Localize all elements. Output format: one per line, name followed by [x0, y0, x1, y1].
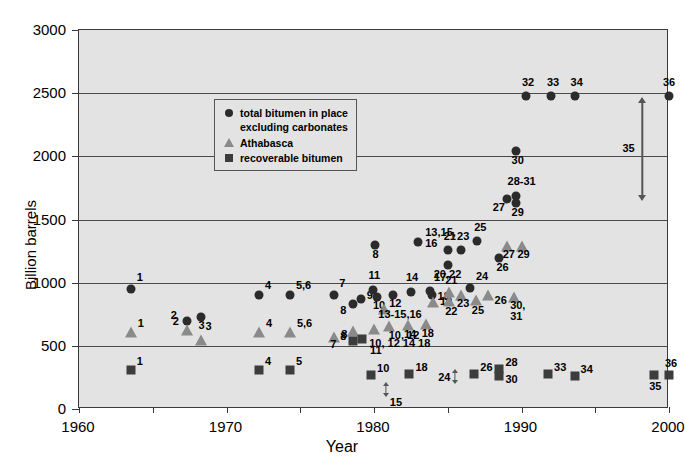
- arrow-shaft: [455, 373, 456, 381]
- data-point-circle: [665, 91, 674, 100]
- arrow-head-down: [638, 195, 646, 201]
- data-point-square: [349, 336, 358, 345]
- data-point-label: 36: [665, 358, 677, 370]
- y-axis-tick: [72, 220, 79, 221]
- plot-area: 12345,6789811101213,15, 16141718212320,2…: [78, 29, 668, 408]
- legend-row: Athabasca: [222, 135, 350, 150]
- data-point-square: [367, 370, 376, 379]
- arrow-head-up: [452, 369, 458, 373]
- x-axis-tick-label: 1980: [356, 418, 389, 435]
- data-point-label: 24: [476, 271, 488, 283]
- arrow-head-up: [638, 97, 646, 103]
- x-axis-tick: [448, 407, 449, 413]
- gridline: [79, 220, 667, 221]
- y-axis-tick: [72, 283, 79, 284]
- data-point-label: 35: [649, 381, 661, 393]
- data-point-label: 8: [341, 329, 347, 341]
- data-point-triangle: [253, 326, 265, 337]
- data-point-label: 30: [512, 155, 524, 167]
- data-point-label: 23: [457, 231, 469, 243]
- data-point-square: [650, 370, 659, 379]
- data-point-label: 28-31: [508, 176, 536, 188]
- data-point-label: 28: [505, 357, 517, 369]
- legend-label: total bitumen in place: [236, 107, 348, 119]
- y-axis-tick-label: 500: [0, 336, 66, 353]
- data-point-circle: [473, 236, 482, 245]
- data-point-label: 4: [265, 280, 271, 292]
- legend-label: recoverable bitumen: [236, 152, 343, 164]
- data-point-label: 21: [445, 275, 457, 287]
- x-axis-tick: [300, 407, 301, 413]
- y-axis-tick-label: 2500: [0, 84, 66, 101]
- arrow-head-up: [383, 382, 389, 386]
- data-point-triangle: [125, 326, 137, 337]
- data-point-label: 7: [339, 278, 345, 290]
- data-point-square: [665, 370, 674, 379]
- x-axis-tick-label: 1970: [209, 418, 242, 435]
- x-axis-title: Year: [0, 438, 684, 456]
- data-point-label: 4: [265, 356, 271, 368]
- square-marker-icon: [222, 154, 236, 162]
- data-point-label: 22: [445, 306, 457, 318]
- arrow-head-down: [452, 380, 458, 384]
- data-point-label: 25: [474, 222, 486, 234]
- data-point-square: [126, 365, 135, 374]
- data-point-circle: [254, 291, 263, 300]
- data-point-label: 33: [554, 362, 566, 374]
- annotation-label: 15: [390, 396, 402, 408]
- x-axis-tick: [227, 407, 228, 413]
- data-point-circle: [330, 290, 339, 299]
- data-point-label: 34: [571, 77, 583, 89]
- annotation-label: 24: [438, 371, 450, 383]
- data-point-circle: [126, 284, 135, 293]
- data-point-circle: [457, 246, 466, 255]
- data-point-label: 30: [505, 374, 517, 386]
- gridline: [79, 283, 667, 284]
- data-point-label: 7: [330, 339, 336, 351]
- data-point-triangle: [195, 335, 207, 346]
- y-axis-tick-label: 1000: [0, 273, 66, 290]
- x-axis-tick: [522, 407, 523, 413]
- arrow-head-down: [383, 393, 389, 397]
- data-point-label: 3: [205, 321, 211, 333]
- data-point-label: 27: [503, 249, 515, 261]
- y-axis-tick-label: 2000: [0, 147, 66, 164]
- data-point-square: [358, 334, 367, 343]
- data-point-label: 34: [581, 364, 593, 376]
- data-point-square: [544, 370, 553, 379]
- data-point-label: 8: [372, 249, 378, 261]
- x-axis-tick: [79, 407, 80, 413]
- annotation-label: 35: [622, 142, 634, 154]
- data-point-label: 8: [340, 305, 346, 317]
- data-point-label: 21: [444, 231, 456, 243]
- x-axis-tick-label: 2000: [651, 418, 684, 435]
- range-arrow-15: [381, 382, 391, 397]
- data-point-triangle: [482, 289, 494, 300]
- x-axis-tick-label: 1990: [504, 418, 537, 435]
- data-point-square: [285, 366, 294, 375]
- data-point-square: [495, 371, 504, 380]
- data-point-label: 5,6: [296, 280, 311, 292]
- data-point-label: 30, 31: [510, 300, 525, 323]
- triangle-marker-icon: [222, 138, 236, 147]
- legend-row: recoverable bitumen: [222, 150, 350, 165]
- data-point-label: 5,6: [297, 318, 312, 330]
- data-point-label: 14: [406, 272, 418, 284]
- data-point-label: 11: [369, 270, 381, 282]
- data-point-circle: [443, 246, 452, 255]
- y-axis-tick: [72, 30, 79, 31]
- data-point-label: 2: [173, 316, 179, 328]
- y-axis-tick: [72, 346, 79, 347]
- arrow-shaft: [385, 386, 386, 393]
- data-point-circle: [356, 295, 365, 304]
- data-point-label: 26: [496, 262, 508, 274]
- y-axis-tick-label: 0: [0, 400, 66, 417]
- chart-legend: total bitumen in placeexcluding carbonat…: [214, 99, 357, 171]
- data-point-label: 27: [493, 202, 505, 214]
- y-axis-tick: [72, 156, 79, 157]
- data-point-label: 13-15,16: [378, 309, 421, 321]
- x-axis-tick: [374, 407, 375, 413]
- x-axis-tick: [595, 407, 596, 413]
- data-point-triangle: [181, 325, 193, 336]
